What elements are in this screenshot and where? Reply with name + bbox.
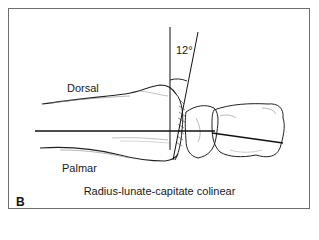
capitate-bone [212,104,284,157]
capitate-axis-line [212,133,283,143]
figure-caption: Radius-lunate-capitate colinear [0,186,319,197]
palmar-label: Palmar [62,163,97,174]
dorsal-label: Dorsal [67,83,99,94]
angle-label: 12° [176,45,193,56]
angle-arc [170,79,187,81]
panel-label: B [16,196,25,208]
radius-bone [40,85,178,161]
